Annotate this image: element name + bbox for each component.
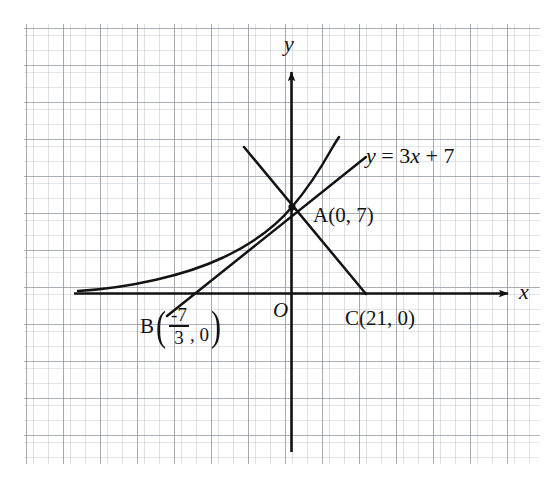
point-b-fraction: -7 3 — [169, 305, 189, 347]
x-axis-label: x — [519, 281, 529, 303]
point-b-numerator: -7 — [169, 305, 189, 324]
equation-y: y — [366, 143, 376, 168]
line-y-3x-plus-7 — [167, 157, 366, 316]
equation-constant: 7 — [443, 143, 454, 168]
point-c-label: C(21, 0) — [345, 308, 415, 329]
equation-label: y = 3x + 7 — [366, 145, 454, 167]
point-b-close-paren: ) — [211, 310, 221, 343]
point-b-denominator: 3 — [172, 328, 186, 347]
point-b-open-paren: ( — [156, 310, 166, 343]
point-b-label: B ( -7 3 , 0 ) — [140, 305, 223, 347]
equation-variable: x — [410, 143, 420, 168]
equation-coefficient: 3 — [399, 143, 410, 168]
graph-figure: y x O y = 3x + 7 A(0, 7) C(21, 0) B ( -7… — [0, 0, 558, 481]
plot-canvas — [0, 0, 558, 481]
point-a-marker — [288, 203, 295, 210]
equation-equals: = — [381, 143, 393, 168]
point-a-label: A(0, 7) — [313, 205, 374, 226]
equation-plus: + — [425, 143, 437, 168]
y-axis-label: y — [284, 33, 294, 55]
point-b-letter: B — [140, 316, 154, 337]
origin-label: O — [273, 300, 288, 321]
point-b-second-coord: , 0 — [190, 325, 209, 347]
